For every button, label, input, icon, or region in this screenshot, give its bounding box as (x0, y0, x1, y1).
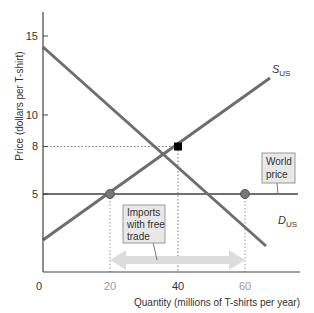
x-tick-60: 60 (239, 280, 251, 292)
import-chart: 15 10 8 5 0 20 40 60 Price (dollars per … (0, 0, 314, 313)
demand-label: DUS (278, 214, 297, 229)
world-price-callout: World price (262, 153, 295, 194)
svg-text:trade: trade (127, 231, 150, 242)
equilibrium-point (174, 143, 182, 151)
imports-callout: Imports with free trade (123, 205, 165, 260)
y-tick-10: 10 (26, 109, 38, 121)
svg-text:with free: with free (126, 219, 165, 230)
supply-world-price-point (106, 190, 115, 199)
y-tick-15: 15 (26, 30, 38, 42)
x-tick-0: 0 (36, 280, 42, 292)
svg-text:price: price (266, 169, 288, 180)
svg-text:World: World (266, 156, 292, 167)
x-axis-label: Quantity (millions of T-shirts per year) (134, 297, 300, 308)
y-tick-8: 8 (32, 140, 38, 152)
demand-world-price-point (241, 190, 250, 199)
supply-label: SUS (272, 63, 290, 78)
y-tick-5: 5 (32, 188, 38, 200)
x-tick-40: 40 (172, 280, 184, 292)
x-tick-20: 20 (104, 280, 116, 292)
svg-text:Imports: Imports (127, 207, 160, 218)
y-axis-label: Price (dollars per T-shirt) (14, 51, 25, 160)
